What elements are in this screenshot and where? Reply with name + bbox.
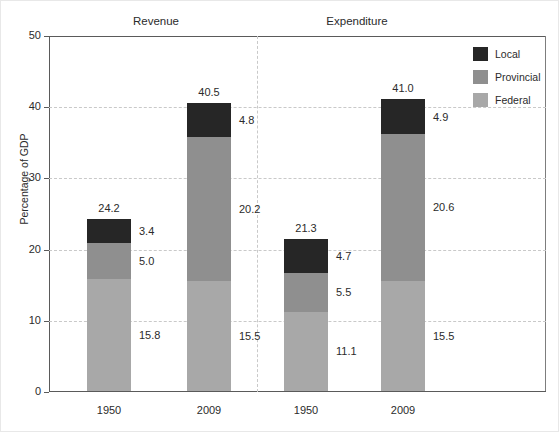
segment-value-label: 4.7 bbox=[336, 250, 351, 262]
chart-figure: Revenue Expenditure Percentage of GDP 01… bbox=[0, 0, 559, 432]
bar-segment-provincial[interactable] bbox=[187, 137, 231, 281]
segment-value-label: 20.2 bbox=[239, 203, 260, 215]
y-tick-label-0: 0 bbox=[1, 385, 41, 397]
bar-expenditure-1950[interactable] bbox=[284, 239, 328, 391]
bar-revenue-1950[interactable] bbox=[87, 219, 131, 391]
bar-total-label: 21.3 bbox=[295, 222, 316, 234]
x-tick-label-1: 2009 bbox=[197, 404, 221, 416]
bar-segment-federal[interactable] bbox=[87, 279, 131, 391]
segment-value-label: 4.8 bbox=[239, 114, 254, 126]
segment-value-label: 11.1 bbox=[336, 345, 357, 357]
legend-swatch-icon bbox=[473, 93, 488, 107]
panel-title-expenditure: Expenditure bbox=[326, 15, 387, 27]
segment-value-label: 20.6 bbox=[433, 201, 454, 213]
axis-bottom bbox=[49, 391, 546, 392]
y-tick-label-30: 30 bbox=[1, 171, 41, 183]
bar-total-label: 40.5 bbox=[198, 86, 219, 98]
segment-value-label: 15.5 bbox=[433, 330, 454, 342]
segment-value-label: 15.8 bbox=[139, 329, 160, 341]
segment-value-label: 4.9 bbox=[433, 111, 448, 123]
axis-right bbox=[545, 36, 546, 392]
legend-item-federal[interactable]: Federal bbox=[473, 90, 541, 110]
legend-label: Federal bbox=[495, 94, 531, 106]
x-tick-label-2: 1950 bbox=[294, 404, 318, 416]
legend: LocalProvincialFederal bbox=[473, 44, 541, 113]
bar-expenditure-2009[interactable] bbox=[381, 99, 425, 391]
y-tick-label-50: 50 bbox=[1, 29, 41, 41]
legend-item-local[interactable]: Local bbox=[473, 44, 541, 64]
bar-segment-federal[interactable] bbox=[381, 281, 425, 391]
segment-value-label: 15.5 bbox=[239, 330, 260, 342]
bar-segment-local[interactable] bbox=[187, 103, 231, 137]
bar-segment-provincial[interactable] bbox=[87, 243, 131, 279]
gridline-40 bbox=[49, 107, 546, 108]
legend-swatch-icon bbox=[473, 47, 488, 61]
x-tick-label-3: 2009 bbox=[391, 404, 415, 416]
bar-total-label: 24.2 bbox=[98, 202, 119, 214]
y-tick-mark-0 bbox=[44, 392, 49, 393]
legend-item-provincial[interactable]: Provincial bbox=[473, 67, 541, 87]
bar-total-label: 41.0 bbox=[392, 82, 413, 94]
panel-title-revenue: Revenue bbox=[133, 15, 179, 27]
y-tick-label-40: 40 bbox=[1, 100, 41, 112]
axis-left bbox=[49, 36, 50, 392]
segment-value-label: 5.5 bbox=[336, 286, 351, 298]
bar-segment-federal[interactable] bbox=[284, 312, 328, 391]
bar-segment-local[interactable] bbox=[284, 239, 328, 272]
axis-top bbox=[49, 36, 546, 37]
bar-segment-local[interactable] bbox=[381, 99, 425, 134]
segment-value-label: 3.4 bbox=[139, 225, 154, 237]
bar-segment-provincial[interactable] bbox=[284, 273, 328, 312]
legend-label: Local bbox=[495, 48, 520, 60]
legend-label: Provincial bbox=[495, 71, 541, 83]
x-tick-label-0: 1950 bbox=[97, 404, 121, 416]
segment-value-label: 5.0 bbox=[139, 255, 154, 267]
plot-area: 3.45.015.824.24.820.215.540.54.75.511.12… bbox=[49, 36, 546, 392]
bar-segment-local[interactable] bbox=[87, 219, 131, 243]
bar-segment-provincial[interactable] bbox=[381, 134, 425, 281]
legend-swatch-icon bbox=[473, 70, 488, 84]
gridline-30 bbox=[49, 178, 546, 179]
y-tick-label-20: 20 bbox=[1, 243, 41, 255]
bar-revenue-2009[interactable] bbox=[187, 103, 231, 391]
y-tick-label-10: 10 bbox=[1, 314, 41, 326]
bar-segment-federal[interactable] bbox=[187, 281, 231, 391]
